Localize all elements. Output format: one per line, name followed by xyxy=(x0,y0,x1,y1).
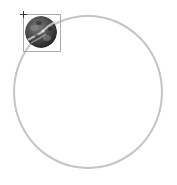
planet-texture xyxy=(25,16,57,48)
drawing-canvas[interactable] xyxy=(0,0,177,185)
crosshair-icon[interactable] xyxy=(20,11,27,18)
planet-icon[interactable] xyxy=(25,16,57,48)
